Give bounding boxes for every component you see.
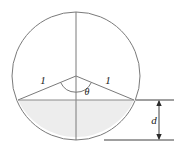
radius-left-label: 1: [40, 74, 46, 86]
geometry-figure: 1 1 θ d: [0, 0, 178, 157]
radius-right-label: 1: [105, 74, 111, 86]
radius-left-line: [18, 76, 76, 100]
central-angle-label: θ: [85, 86, 90, 97]
dimension-arrowhead-down: [156, 134, 161, 140]
dimension-arrowhead-up: [156, 100, 161, 106]
circle-segment-diagram: 1 1 θ d: [0, 0, 178, 157]
depth-label: d: [151, 114, 157, 126]
